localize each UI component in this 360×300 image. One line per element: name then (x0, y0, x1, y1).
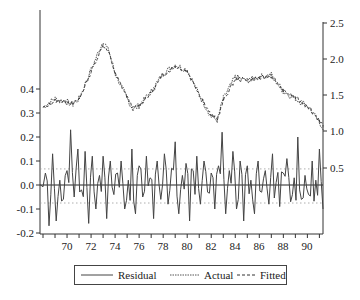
x-tick-label: 88 (278, 240, 290, 252)
legend: Residual Actual Fitted (75, 266, 287, 285)
fitted-line (43, 45, 323, 127)
left-tick-label: 0.0 (20, 179, 34, 191)
x-tick-label: 84 (230, 240, 242, 252)
right-tick-label: 1.5 (330, 89, 344, 101)
right-tick-label: 2.0 (330, 53, 344, 65)
residual-line (41, 130, 323, 226)
x-axis-ticks (43, 234, 319, 238)
left-tick-label: -0.1 (17, 203, 34, 215)
legend-residual-label: Residual (118, 269, 157, 281)
x-tick-label: 76 (134, 240, 146, 252)
right-tick-label: 1.0 (330, 125, 344, 137)
left-axis-ticks: 0.4 0.3 0.2 0.1 0.0 -0.1 -0.2 (17, 83, 40, 239)
right-axis-ticks: 2.5 2.0 1.5 1.0 0.5 (323, 17, 344, 174)
left-tick-label: 0.3 (20, 107, 34, 119)
x-tick-label: 82 (206, 240, 217, 252)
right-tick-label: 0.5 (330, 162, 344, 174)
x-tick-label: 74 (110, 240, 122, 252)
left-tick-label: 0.1 (20, 155, 34, 167)
legend-fitted-label: Fitted (260, 269, 286, 281)
legend-actual-label: Actual (204, 269, 233, 281)
x-tick-label: 78 (158, 240, 170, 252)
chart: 0.4 0.3 0.2 0.1 0.0 -0.1 -0.2 2.5 2.0 1.… (0, 0, 360, 300)
left-tick-label: 0.4 (20, 83, 34, 95)
left-tick-label: -0.2 (17, 227, 34, 239)
x-tick-label: 80 (182, 240, 194, 252)
x-tick-label: 86 (254, 240, 266, 252)
x-tick-label: 90 (302, 240, 314, 252)
x-tick-label: 70 (62, 240, 74, 252)
x-axis-labels: 70 72 74 76 78 80 82 84 86 88 90 (62, 240, 314, 252)
x-tick-label: 72 (86, 240, 97, 252)
left-tick-label: 0.2 (20, 131, 34, 143)
right-tick-label: 2.5 (330, 17, 344, 29)
